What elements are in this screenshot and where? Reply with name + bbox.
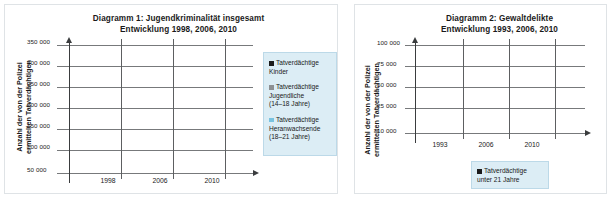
diagram-1-y-tick: 100 000 — [27, 143, 50, 150]
diagram-1-y-tick: 350 000 — [27, 38, 50, 45]
diagram-1-plot-area — [57, 39, 253, 173]
legend-entry-kinder-line1: Tatverdächtige — [269, 59, 332, 68]
diagram-1-y-tick: 300 000 — [27, 59, 50, 66]
diagram-1-panel: Diagramm 1: Jugendkriminalität insgesamt… — [4, 4, 338, 194]
diagram-1-vertical-gridline — [173, 39, 174, 179]
diagram-2-y-axis-label: Anzahl der von der Polizei ermittelten T… — [363, 35, 381, 185]
diagram-1-y-tick: 150 000 — [27, 122, 50, 129]
legend-entry-heranwachsende: Tatverdächtige Heranwachsende (18–21 Jah… — [269, 116, 332, 142]
diagram-2-title-line: Diagramm 2: Gewaltdelikte — [407, 13, 592, 24]
legend-entry-heranwachsende-text2: Heranwachsende — [269, 125, 332, 134]
diagram-2-gridline — [405, 133, 585, 134]
diagram-2-gridline — [405, 45, 585, 46]
diagram-1-title-line: Diagramm 1: Jugendkriminalität insgesamt — [61, 13, 296, 24]
diagram-2-gridline — [405, 87, 585, 88]
legend-entry-jugendliche-line1: Tatverdächtige — [269, 83, 332, 92]
diagram-2-vertical-gridline — [555, 39, 556, 139]
diagram-1-y-tick: 200 000 — [27, 101, 50, 108]
diagram-1-vertical-gridline — [225, 39, 226, 179]
diagram-2-y-axis-label-line2: ermittelten Tatverdächtigen — [372, 35, 381, 185]
legend-entry-unter-21-text2: unter 21 Jahre — [477, 176, 544, 185]
diagram-1-y-tick: 250 000 — [27, 80, 50, 87]
diagram-1-y-axis-arrow-icon — [66, 37, 72, 43]
legend-entry-unter-21-line1: Tatverdächtige — [477, 167, 544, 176]
diagram-2-x-tick: 2010 — [519, 141, 545, 149]
legend-entry-kinder-text1: Tatverdächtige — [276, 59, 319, 66]
diagram-1-gridline — [57, 66, 253, 67]
diagram-1-gridline — [57, 173, 253, 174]
legend-entry-jugendliche-text1: Tatverdächtige — [276, 83, 319, 90]
diagram-1-x-axis-arrow-icon — [253, 170, 259, 176]
diagram-1-subtitle-line: Entwicklung 1998, 2006, 2010 — [61, 24, 296, 35]
diagram-1-gridline — [57, 87, 253, 88]
diagram-1-x-tick: 2006 — [147, 177, 173, 185]
figure-canvas: Diagramm 1: Jugendkriminalität insgesamt… — [0, 0, 611, 206]
legend-entry-heranwachsende-text3: (18–21 Jahre) — [269, 133, 332, 142]
diagram-2-subtitle-line: Entwicklung 1993, 2006, 2010 — [407, 24, 592, 35]
diagram-2-x-tick: 1993 — [427, 141, 453, 149]
diagram-2-legend: Tatverdächtige unter 21 Jahre — [471, 161, 549, 189]
legend-entry-jugendliche-text3: (14–18 Jahre) — [269, 100, 332, 109]
legend-entry-unter-21: Tatverdächtige unter 21 Jahre — [477, 167, 544, 184]
diagram-2-title: Diagramm 2: Gewaltdelikte Entwicklung 19… — [407, 13, 592, 35]
diagram-2-vertical-gridline — [509, 39, 510, 139]
diagram-1-y-axis — [69, 43, 70, 183]
diagram-2-y-tick: 50 000 — [377, 81, 397, 88]
diagram-1-gridline — [57, 108, 253, 109]
diagram-1-gridline — [57, 129, 253, 130]
diagram-2-y-tick: 25 000 — [377, 102, 397, 109]
legend-entry-heranwachsende-text1: Tatverdächtige — [276, 116, 319, 123]
diagram-2-x-axis-arrow-icon — [585, 130, 591, 136]
diagram-1-gridline — [57, 45, 253, 46]
legend-entry-heranwachsende-line1: Tatverdächtige — [269, 116, 332, 125]
legend-entry-kinder-text2: Kinder — [269, 68, 332, 77]
diagram-2-y-tick: 100 000 — [377, 39, 400, 46]
diagram-1-title: Diagramm 1: Jugendkriminalität insgesamt… — [61, 13, 296, 35]
diagram-2-plot-area — [405, 39, 585, 139]
legend-swatch-blue-icon — [269, 118, 274, 123]
diagram-2-gridline — [405, 66, 585, 67]
diagram-1-y-tick: 50 000 — [27, 166, 47, 173]
diagram-1-x-tick: 2010 — [199, 177, 225, 185]
legend-entry-kinder: Tatverdächtige Kinder — [269, 59, 332, 76]
diagram-2-x-tick: 2006 — [473, 141, 499, 149]
diagram-2-y-axis-label-line1: Anzahl der von der Polizei — [363, 35, 372, 185]
legend-entry-jugendliche-text2: Jugendliche — [269, 92, 332, 101]
diagram-2-vertical-gridline — [463, 39, 464, 139]
diagram-1-vertical-gridline — [121, 39, 122, 179]
diagram-1-legend: Tatverdächtige Kinder Tatverdächtige Jug… — [263, 52, 337, 156]
legend-swatch-black-icon — [477, 169, 482, 174]
diagram-1-y-axis-label-line1: Anzahl der von der Polizei — [15, 37, 24, 177]
diagram-2-gridline — [405, 108, 585, 109]
diagram-1-x-tick: 1998 — [95, 177, 121, 185]
diagram-2-y-tick: 75 000 — [377, 60, 397, 67]
legend-entry-jugendliche: Tatverdächtige Jugendliche (14–18 Jahre) — [269, 83, 332, 109]
diagram-2-y-axis-arrow-icon — [412, 37, 418, 43]
diagram-2-y-tick: 10 000 — [377, 127, 397, 134]
diagram-2-panel: Diagramm 2: Gewaltdelikte Entwicklung 19… — [354, 4, 607, 194]
legend-swatch-gray-icon — [269, 85, 274, 90]
diagram-1-gridline — [57, 150, 253, 151]
legend-entry-unter-21-text1: Tatverdächtige — [484, 167, 527, 174]
legend-swatch-black-icon — [269, 61, 274, 66]
diagram-2-y-axis — [415, 43, 416, 143]
